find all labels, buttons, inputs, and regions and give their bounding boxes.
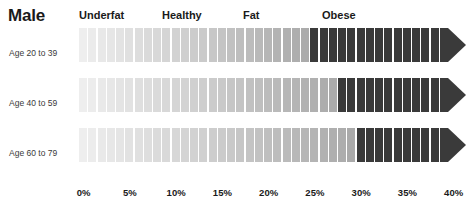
bar-segment xyxy=(283,28,291,62)
axis-tick-20: 20% xyxy=(249,187,289,198)
bar-segment xyxy=(310,78,318,112)
bar-segment xyxy=(181,78,189,112)
axis-tick-10: 10% xyxy=(156,187,196,198)
bar-segment xyxy=(320,78,328,112)
bar-segment xyxy=(412,78,420,112)
axis-tick-40: 40% xyxy=(434,187,470,198)
bar-segment xyxy=(338,28,346,62)
bar-segment xyxy=(403,78,411,112)
bar-segment xyxy=(301,78,309,112)
bar-segment xyxy=(264,28,272,62)
bar-segment xyxy=(162,78,170,112)
bar-segment xyxy=(412,128,420,162)
bar-segment xyxy=(403,128,411,162)
bar-segment xyxy=(357,128,365,162)
bar-segment xyxy=(255,78,263,112)
bar-segment xyxy=(181,128,189,162)
bar-segment xyxy=(190,28,198,62)
bar-segment xyxy=(394,28,402,62)
bar-segment xyxy=(209,78,217,112)
bar-segment xyxy=(107,78,115,112)
bar-segment xyxy=(218,78,226,112)
bar-segment xyxy=(162,128,170,162)
bar-segment xyxy=(236,28,244,62)
bar-segment xyxy=(227,28,235,62)
bar-segment xyxy=(384,28,392,62)
bar-segment xyxy=(366,28,374,62)
bar-segment xyxy=(98,28,106,62)
category-label-obese: Obese xyxy=(322,9,356,21)
bar-segment xyxy=(135,28,143,62)
bar-segment xyxy=(431,78,439,112)
table-row xyxy=(0,78,461,112)
bar-segment xyxy=(357,28,365,62)
bar-segment xyxy=(375,28,383,62)
bar-segment xyxy=(264,78,272,112)
bar-segment xyxy=(421,78,429,112)
bar-segment xyxy=(264,128,272,162)
axis-tick-0: 0% xyxy=(64,187,104,198)
bar-segment xyxy=(135,128,143,162)
page-title: Male xyxy=(8,6,45,26)
bar-segment xyxy=(366,78,374,112)
bar-arrow-head xyxy=(448,128,466,162)
bar-segment xyxy=(88,78,96,112)
bar-segment xyxy=(347,78,355,112)
bar-segment xyxy=(421,128,429,162)
bar-segment xyxy=(107,128,115,162)
bar-segment xyxy=(135,78,143,112)
bar-segment xyxy=(227,128,235,162)
bar-segment xyxy=(329,78,337,112)
bar-segment xyxy=(79,128,87,162)
bar-segment xyxy=(292,28,300,62)
bar-segment xyxy=(144,28,152,62)
bar-segment xyxy=(394,78,402,112)
bar-segment xyxy=(273,28,281,62)
axis-tick-35: 35% xyxy=(387,187,427,198)
bar-segment xyxy=(273,128,281,162)
bar-segment xyxy=(347,28,355,62)
bar-segment xyxy=(218,28,226,62)
bar-segment xyxy=(283,128,291,162)
bar-segment xyxy=(421,28,429,62)
bar-segment xyxy=(246,28,254,62)
bar-segment xyxy=(357,78,365,112)
bar-segment xyxy=(199,78,207,112)
bar-segment xyxy=(255,28,263,62)
bar-segment xyxy=(153,128,161,162)
bar-segment xyxy=(320,128,328,162)
bar-segment xyxy=(338,128,346,162)
bar-segment xyxy=(153,28,161,62)
bar-segment xyxy=(255,128,263,162)
bar-segment xyxy=(320,28,328,62)
bar-segment xyxy=(79,78,87,112)
bar-segment xyxy=(209,128,217,162)
bar-arrow-head xyxy=(448,28,466,62)
bar-segment xyxy=(181,28,189,62)
bar-segment xyxy=(172,128,180,162)
bar-arrow-head xyxy=(448,78,466,112)
bar-segment xyxy=(375,128,383,162)
bar-segment xyxy=(384,78,392,112)
bar-segment xyxy=(347,128,355,162)
bar-segment xyxy=(301,128,309,162)
axis-tick-5: 5% xyxy=(110,187,150,198)
bar-segment xyxy=(190,78,198,112)
bar-segment xyxy=(310,28,318,62)
bar-segment xyxy=(199,28,207,62)
bar-segment xyxy=(88,28,96,62)
bar-segment xyxy=(384,128,392,162)
bar-segment xyxy=(246,78,254,112)
bar-segment xyxy=(98,128,106,162)
bar-segment xyxy=(172,78,180,112)
bar-segment xyxy=(162,28,170,62)
bar-segment xyxy=(273,78,281,112)
axis-tick-25: 25% xyxy=(295,187,335,198)
bar-segment xyxy=(310,128,318,162)
bar-segment xyxy=(125,28,133,62)
bar-segment xyxy=(366,128,374,162)
bar-segment xyxy=(107,28,115,62)
bar-segment xyxy=(227,78,235,112)
bar-segment xyxy=(218,128,226,162)
bar-segment xyxy=(301,28,309,62)
